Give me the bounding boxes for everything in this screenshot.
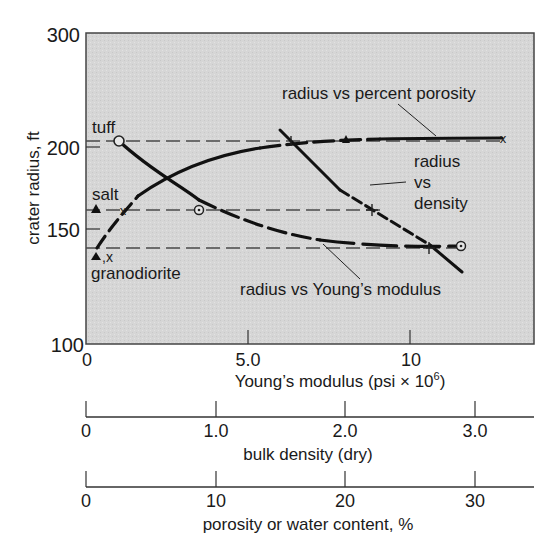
label-granodiorite-markers: ,x [102, 249, 113, 265]
x-tick-0: 0 [82, 350, 92, 370]
y-tick-150: 150 [47, 219, 80, 241]
x-axis-label-youngs: Young’s modulus (psi × 106) [235, 370, 446, 391]
porosity-tick-30: 30 [465, 491, 485, 511]
porosity-tick-10: 10 [206, 491, 226, 511]
label-salt: salt [92, 185, 119, 204]
y-axis-label: crater radius, ft [24, 131, 43, 245]
density-tick-3: 3.0 [462, 421, 487, 441]
density-axis-label: bulk density (dry) [243, 445, 372, 464]
x-axis-label-main: Young’s modulus (psi × 10 [235, 372, 434, 391]
tuff-x-marker: x [500, 131, 507, 146]
label-density-radius: radius [414, 152, 460, 171]
salt-x-marker: x [120, 203, 127, 218]
x-axis-label-close: ) [440, 372, 446, 391]
density-tick-1: 1.0 [203, 421, 228, 441]
label-granodiorite: granodiorite [91, 264, 181, 283]
x-axis-bulk-density: 0 1.0 2.0 3.0 bulk density (dry) [81, 401, 534, 464]
x-axis-porosity: 0 10 20 30 porosity or water content, % [81, 471, 534, 534]
y-tick-100: 100 [51, 334, 84, 356]
porosity-tick-20: 20 [335, 491, 355, 511]
tuff-open-circle-marker [114, 136, 124, 146]
y-tick-200: 200 [47, 137, 80, 159]
chart: 300 200 150 100 crater radius, ft 0 5.0 … [0, 0, 552, 554]
label-density-density: density [414, 194, 468, 213]
density-tick-0: 0 [81, 421, 91, 441]
label-porosity-curve: radius vs percent porosity [282, 84, 476, 103]
x-tick-5: 5.0 [235, 350, 260, 370]
label-youngs-curve: radius vs Young’s modulus [240, 280, 441, 299]
label-density-vs: vs [414, 173, 431, 192]
density-tick-2: 2.0 [332, 421, 357, 441]
label-tuff: tuff [92, 118, 116, 137]
porosity-axis-label: porosity or water content, % [203, 515, 414, 534]
x-tick-10: 10 [401, 350, 421, 370]
porosity-tick-0: 0 [81, 491, 91, 511]
y-tick-300: 300 [47, 24, 80, 46]
